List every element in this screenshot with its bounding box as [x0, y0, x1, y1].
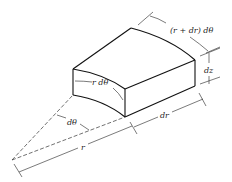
r-label: r [81, 143, 86, 152]
angle-dim-left [57, 115, 66, 118]
r-dim-line-right [88, 126, 132, 144]
dz-extension-top [200, 48, 220, 56]
outer-arc-extension-left [138, 12, 153, 25]
outer-arc-extension-right [206, 47, 220, 53]
dr-label: dr [160, 111, 170, 120]
volume-element-diagram: (r + dr) dθ dz r dθ dθ dr r [0, 0, 232, 182]
angle-label: dθ [67, 118, 77, 127]
block [73, 28, 195, 117]
dr-extension-left [130, 122, 137, 134]
outer-arc-dim-arrow-right [190, 37, 208, 51]
dr-dim-line-right [172, 99, 203, 112]
inner-arc-dim-left [75, 81, 92, 82]
angle-dim-right [80, 124, 89, 130]
top-face-back-edge [73, 28, 131, 69]
r-dim-line-left [19, 148, 78, 172]
inner-arc-dim-right [113, 88, 123, 100]
r-extension-apex [14, 164, 22, 177]
outer-arc-dim-arrow-left [150, 16, 166, 23]
dz-label: dz [204, 66, 214, 75]
top-face-right-edge [125, 60, 195, 89]
radial-line-left [12, 95, 73, 160]
dr-dim-line-left [134, 117, 158, 127]
front-face-bottom-arc [73, 95, 125, 117]
inner-arc-label: r dθ [92, 78, 108, 87]
outer-arc-label: (r + dr) dθ [170, 26, 213, 35]
dz-extension-bottom [200, 77, 220, 84]
